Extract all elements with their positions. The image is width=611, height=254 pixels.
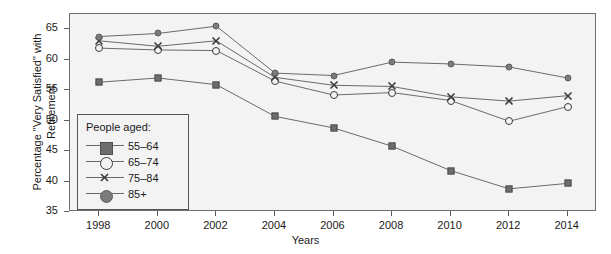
x-tick-label: 2014 bbox=[547, 220, 587, 231]
x-tick-label: 2012 bbox=[488, 220, 528, 231]
x-tick-mark bbox=[98, 211, 99, 216]
legend-swatch-open-circle-icon bbox=[86, 155, 124, 169]
x-tick-label: 2010 bbox=[430, 220, 470, 231]
legend-title: People aged: bbox=[86, 121, 181, 134]
y-tick-mark bbox=[64, 28, 69, 29]
y-tick-mark bbox=[64, 59, 69, 60]
legend-entry-55-64[interactable]: 55–64 bbox=[86, 138, 181, 154]
legend-entry-65-74[interactable]: 65–74 bbox=[86, 154, 181, 170]
y-tick-label: 65 bbox=[36, 22, 58, 33]
y-tick-label: 45 bbox=[36, 144, 58, 155]
x-tick-mark bbox=[157, 211, 158, 216]
y-tick-mark bbox=[64, 120, 69, 121]
x-tick-mark bbox=[333, 211, 334, 216]
legend-label: 75–84 bbox=[128, 172, 159, 185]
legend-entry-85+[interactable]: 85+ bbox=[86, 186, 181, 202]
x-tick-label: 2000 bbox=[137, 220, 177, 231]
legend-label: 55–64 bbox=[128, 140, 159, 153]
y-tick-mark bbox=[64, 89, 69, 90]
x-tick-label: 2002 bbox=[195, 220, 235, 231]
legend-entry-75-84[interactable]: 75–84 bbox=[86, 170, 181, 186]
legend-swatch-x-cross-icon bbox=[86, 171, 124, 185]
y-tick-label: 40 bbox=[36, 175, 58, 186]
legend-entries: 55–6465–7475–8485+ bbox=[86, 138, 181, 202]
x-tick-label: 2006 bbox=[313, 220, 353, 231]
y-tick-label: 50 bbox=[36, 114, 58, 125]
y-tick-mark bbox=[64, 150, 69, 151]
chart-figure: 35404550556065 1998200020022004200620082… bbox=[0, 0, 611, 254]
y-tick-mark bbox=[64, 181, 69, 182]
y-tick-label: 60 bbox=[36, 53, 58, 64]
x-tick-mark bbox=[508, 211, 509, 216]
legend-label: 65–74 bbox=[128, 156, 159, 169]
legend: People aged: 55–6465–7475–8485+ bbox=[77, 114, 189, 210]
x-tick-mark bbox=[391, 211, 392, 216]
x-tick-mark bbox=[567, 211, 568, 216]
legend-swatch-filled-square-icon bbox=[86, 139, 124, 153]
x-tick-label: 2008 bbox=[371, 220, 411, 231]
x-tick-label: 2004 bbox=[254, 220, 294, 231]
y-tick-label: 55 bbox=[36, 83, 58, 94]
legend-swatch-filled-circle-icon bbox=[86, 187, 124, 201]
y-tick-mark bbox=[64, 211, 69, 212]
y-tick-label: 35 bbox=[36, 205, 58, 216]
legend-label: 85+ bbox=[128, 188, 147, 201]
x-tick-label: 1998 bbox=[78, 220, 118, 231]
x-axis-label-text: Years bbox=[292, 234, 320, 246]
x-axis-label: Years bbox=[0, 234, 611, 246]
x-tick-mark bbox=[215, 211, 216, 216]
x-tick-mark bbox=[274, 211, 275, 216]
x-tick-mark bbox=[450, 211, 451, 216]
